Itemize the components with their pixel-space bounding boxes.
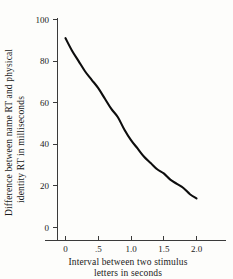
x-tick-label-0: 0 — [63, 244, 68, 254]
chart-canvas: 100 80 60 40 20 0 0 .5 1.0 1.5 2.0 Diffe… — [0, 0, 233, 279]
x-tick-label-1-5: 1.5 — [158, 244, 170, 254]
x-axis-title-line1: Interval between two stimulus — [68, 257, 187, 267]
y-tick-label-100: 100 — [36, 15, 50, 25]
y-tick-label-40: 40 — [40, 139, 50, 149]
chart-figure: 100 80 60 40 20 0 0 .5 1.0 1.5 2.0 Diffe… — [0, 0, 233, 279]
data-curve-name-minus-physical-rt — [66, 38, 197, 198]
y-axis-title-line2: identity RT in milliseconds — [16, 96, 26, 203]
x-axis-ticks — [66, 236, 197, 241]
y-tick-label-60: 60 — [40, 98, 50, 108]
x-tick-label-0-5: .5 — [95, 244, 102, 254]
y-tick-label-0: 0 — [45, 223, 50, 233]
y-axis-ticks — [53, 20, 58, 228]
x-tick-label-2-0: 2.0 — [191, 244, 203, 254]
y-tick-label-20: 20 — [40, 181, 50, 191]
x-tick-label-1-0: 1.0 — [125, 244, 137, 254]
y-tick-label-80: 80 — [40, 56, 50, 66]
y-axis-title-line1: Difference between name RT and physical — [4, 49, 14, 216]
x-axis-title-line2: letters in seconds — [94, 268, 162, 278]
